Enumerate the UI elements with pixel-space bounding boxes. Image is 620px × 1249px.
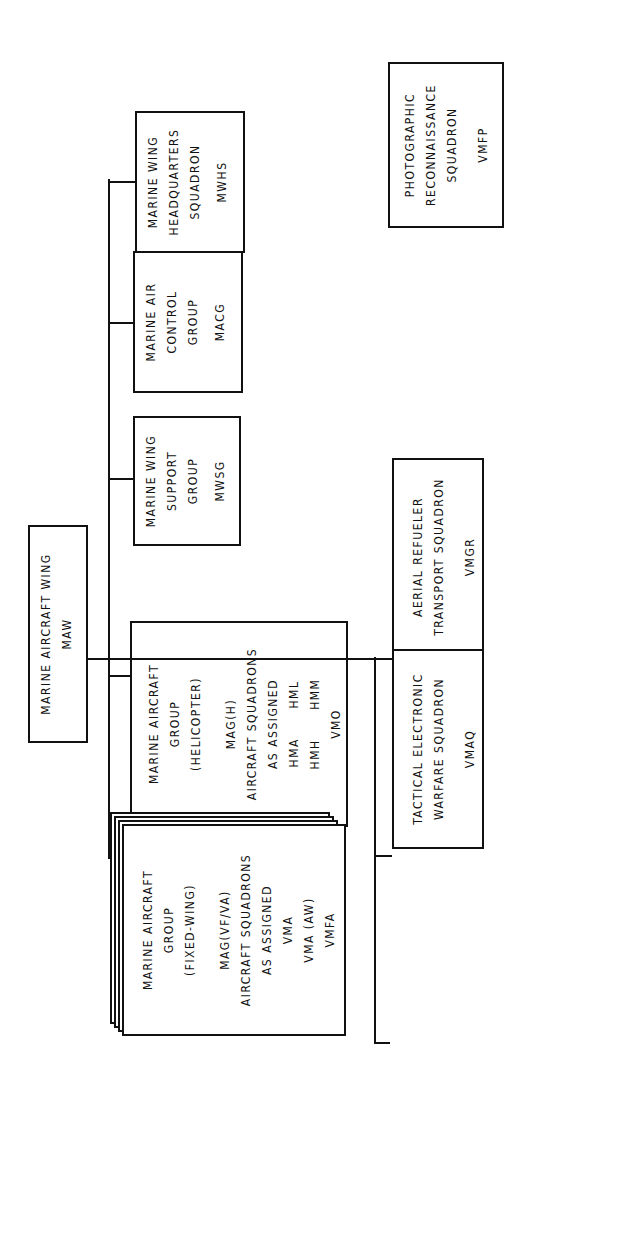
- mwsg-line-2: SUPPORT: [162, 418, 183, 544]
- mwhs-abbr: MWHS: [212, 113, 233, 251]
- mag-fixed-wing-box: MARINE AIRCRAFT GROUP (FIXED-WING) MAG(V…: [122, 824, 346, 1036]
- macg-box: MARINE AIR CONTROL GROUP MACG: [133, 251, 243, 393]
- mag-fw-designation: MAG(VF/VA): [215, 826, 236, 1034]
- mag-fw-line-1: MARINE AIRCRAFT: [138, 826, 159, 1034]
- stub-vmaq: [374, 855, 392, 857]
- vmfp-line-1: PHOTOGRAPHIC: [400, 64, 421, 226]
- mwsg-abbr: MWSG: [210, 418, 231, 544]
- mwhs-line-1: MARINE WING: [143, 113, 164, 251]
- stub-mwsg: [108, 478, 133, 480]
- mag-h-line-2: GROUP: [165, 623, 186, 825]
- mag-fw-squadrons-1: VMA: [278, 826, 299, 1034]
- org-chart-page: MARINE AIRCRAFT WING MAW MARINE WING HEA…: [0, 0, 620, 1249]
- vmfp-line-3: SQUADRON: [442, 64, 463, 226]
- stub-vmfp: [374, 1042, 390, 1044]
- mag-h-squadrons-2: HMH HMM: [305, 623, 326, 825]
- mag-h-line-3: (HELICOPTER): [186, 623, 207, 825]
- stub-mwhs: [108, 181, 135, 183]
- mag-h-heading-1: AIRCRAFT SQUADRONS: [242, 623, 263, 825]
- mag-fw-squadrons-2: VMA (AW): [299, 826, 320, 1034]
- mag-fw-squadrons-3: VMFA: [320, 826, 341, 1034]
- mag-fw-line-3: (FIXED-WING): [180, 826, 201, 1034]
- mag-fw-heading-2: AS ASSIGNED: [257, 826, 278, 1034]
- mag-h-squadrons-3: VMO: [326, 623, 347, 825]
- vmaq-abbr: VMAQ: [460, 651, 481, 847]
- photo-reconnaissance-squadron-box: PHOTOGRAPHIC RECONNAISSANCE SQUADRON VMF…: [388, 62, 504, 228]
- vmaq-line-2: WARFARE SQUADRON: [429, 651, 450, 847]
- vmaq-squadron-box: TACTICAL ELECTRONIC WARFARE SQUADRON VMA…: [392, 649, 484, 849]
- mwhs-line-2: HEADQUARTERS: [164, 113, 185, 251]
- macg-line-2: CONTROL: [162, 253, 183, 391]
- vmgr-line-1: AERIAL REFUELER: [408, 460, 429, 654]
- stub-mag-h: [108, 675, 130, 677]
- mag-h-heading-2: AS ASSIGNED: [263, 623, 284, 825]
- vmgr-squadron-box: AERIAL REFUELER TRANSPORT SQUADRON VMGR: [392, 458, 484, 656]
- vmgr-abbr: VMGR: [460, 460, 481, 654]
- mwsg-line-1: MARINE WING: [141, 418, 162, 544]
- maw-box: MARINE AIRCRAFT WING MAW: [28, 525, 88, 743]
- mwsg-box: MARINE WING SUPPORT GROUP MWSG: [133, 416, 241, 546]
- connector-maw-vertical: [88, 658, 376, 660]
- mag-fw-heading-1: AIRCRAFT SQUADRONS: [236, 826, 257, 1034]
- trunk-left: [108, 179, 110, 859]
- mag-h-designation: MAG(H): [221, 623, 242, 825]
- macg-line-3: GROUP: [183, 253, 204, 391]
- vmfp-abbr: VMFP: [473, 64, 494, 226]
- mwhs-box: MARINE WING HEADQUARTERS SQUADRON MWHS: [135, 111, 245, 253]
- vmaq-line-1: TACTICAL ELECTRONIC: [408, 651, 429, 847]
- mwhs-line-3: SQUADRON: [185, 113, 206, 251]
- vmgr-line-2: TRANSPORT SQUADRON: [429, 460, 450, 654]
- stub-vmgr: [374, 658, 392, 660]
- stub-macg: [108, 322, 135, 324]
- mwsg-line-3: GROUP: [183, 418, 204, 544]
- mag-h-squadrons-1: HMA HML: [284, 623, 305, 825]
- macg-line-1: MARINE AIR: [141, 253, 162, 391]
- vmfp-line-2: RECONNAISSANCE: [421, 64, 442, 226]
- macg-abbr: MACG: [210, 253, 231, 391]
- trunk-squadrons: [374, 657, 376, 1044]
- mag-fw-line-2: GROUP: [159, 826, 180, 1034]
- maw-abbr: MAW: [57, 527, 78, 741]
- mag-h-line-1: MARINE AIRCRAFT: [144, 623, 165, 825]
- mag-helicopter-box: MARINE AIRCRAFT GROUP (HELICOPTER) MAG(H…: [130, 621, 348, 827]
- maw-title: MARINE AIRCRAFT WING: [36, 527, 57, 741]
